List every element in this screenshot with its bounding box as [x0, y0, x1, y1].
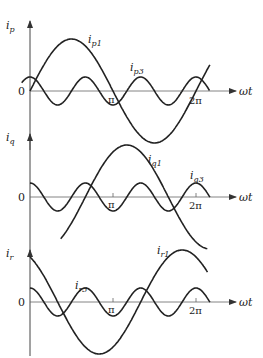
- panel-ip: ip ωt 0 π 2π ip1 ip3: [6, 19, 253, 150]
- y-axis-label: ip: [6, 19, 15, 34]
- tick-label-pi: π: [108, 304, 115, 315]
- y-axis-label: ir: [6, 247, 15, 262]
- curve-label-ip1: ip1: [88, 33, 102, 48]
- panel-iq: iq ωt 0 π 2π iq1 iq3: [6, 131, 253, 255]
- curve-label-ir1: ir1: [157, 244, 169, 259]
- origin-label: 0: [18, 85, 25, 98]
- x-axis-label: ωt: [239, 296, 253, 309]
- panel-ir: ir ωt 0 π 2π ir1 ir3: [6, 244, 253, 356]
- x-axis-label: ωt: [239, 191, 253, 204]
- origin-label: 0: [18, 296, 25, 309]
- tick-label-2pi: 2π: [189, 305, 202, 316]
- tick-label-pi: π: [108, 199, 115, 210]
- origin-label: 0: [18, 191, 25, 204]
- curve-label-ip3: ip3: [130, 61, 144, 76]
- curve-label-iq1: iq1: [148, 153, 162, 168]
- x-axis-label: ωt: [239, 85, 253, 98]
- y-axis-label: iq: [6, 131, 15, 146]
- three-phase-current-diagram: ip ωt 0 π 2π ip1 ip3 iq ωt 0 π 2π iq1 iq…: [0, 0, 263, 358]
- tick-label-2pi: 2π: [189, 200, 202, 211]
- curve-label-ir3: ir3: [75, 279, 87, 294]
- curve-label-iq3: iq3: [190, 169, 204, 184]
